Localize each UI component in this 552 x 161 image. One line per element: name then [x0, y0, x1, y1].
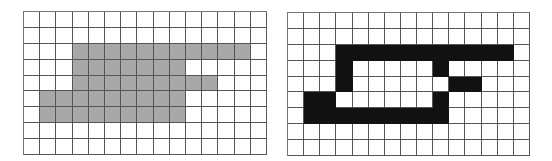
grid-cell: [514, 92, 530, 108]
grid-cell: [304, 124, 320, 140]
filled-cell: [121, 60, 137, 76]
grid-cell: [353, 29, 369, 45]
grid-cell: [235, 28, 251, 44]
grid-cell: [202, 12, 218, 28]
filled-cell: [170, 91, 186, 107]
grid-cell: [24, 123, 40, 139]
filled-cell: [498, 45, 514, 61]
grid-cell: [218, 76, 234, 92]
filled-cell: [336, 45, 352, 61]
filled-cell: [137, 91, 153, 107]
grid-cell: [369, 140, 385, 156]
grid-cell: [73, 12, 89, 28]
grid-cell: [288, 92, 304, 108]
grid-cell: [417, 92, 433, 108]
filled-cell: [202, 76, 218, 92]
grid-cell: [353, 124, 369, 140]
filled-cell: [56, 107, 72, 123]
grid-cell: [304, 140, 320, 156]
grid-cell: [56, 60, 72, 76]
filled-cell: [465, 45, 481, 61]
grid-cell: [170, 139, 186, 155]
grid-cell: [369, 77, 385, 93]
grid-cell: [202, 91, 218, 107]
grid-cell: [336, 92, 352, 108]
grid-cell: [498, 29, 514, 45]
grid-cell: [385, 61, 401, 77]
grid-cell: [218, 139, 234, 155]
grid-cell: [105, 123, 121, 139]
filled-cell: [89, 107, 105, 123]
filled-cell: [401, 45, 417, 61]
grid-cell: [498, 61, 514, 77]
filled-cell: [449, 77, 465, 93]
grid-cell: [154, 28, 170, 44]
grid-cell: [121, 12, 137, 28]
filled-cell: [433, 45, 449, 61]
grid-cell: [320, 140, 336, 156]
grid-cell: [336, 140, 352, 156]
grid-cell: [304, 29, 320, 45]
grid-cell: [401, 61, 417, 77]
grid-cell: [401, 124, 417, 140]
grid-cell: [353, 61, 369, 77]
filled-cell: [433, 61, 449, 77]
grid-cell: [385, 140, 401, 156]
grid-cell: [251, 28, 267, 44]
filled-cell: [105, 91, 121, 107]
grid-cell: [401, 29, 417, 45]
grid-cell: [288, 140, 304, 156]
grid-cell: [73, 28, 89, 44]
grid-cell: [369, 61, 385, 77]
grid-cell: [170, 12, 186, 28]
filled-cell: [170, 44, 186, 60]
grid-cell: [417, 29, 433, 45]
grid-cell: [235, 123, 251, 139]
grid-cell: [417, 77, 433, 93]
filled-cell: [89, 76, 105, 92]
filled-cell: [465, 77, 481, 93]
grid-cell: [385, 77, 401, 93]
filled-cell: [218, 44, 234, 60]
grid-cell: [186, 91, 202, 107]
filled-cell: [336, 61, 352, 77]
grid-cell: [465, 61, 481, 77]
grid-cell: [235, 139, 251, 155]
grid-cell: [24, 107, 40, 123]
grid-cell: [24, 28, 40, 44]
filled-cell: [304, 108, 320, 124]
grid-cell: [89, 123, 105, 139]
grid-cell: [56, 12, 72, 28]
grid-cell: [186, 107, 202, 123]
filled-cell: [482, 45, 498, 61]
grid-cell: [433, 140, 449, 156]
grid-cell: [154, 12, 170, 28]
right-grid-boundary-outline: [287, 12, 530, 156]
grid-cell: [288, 13, 304, 29]
grid-cell: [218, 12, 234, 28]
filled-cell: [121, 91, 137, 107]
filled-cell: [433, 108, 449, 124]
grid-cell: [514, 140, 530, 156]
grid-cell: [251, 139, 267, 155]
filled-cell: [137, 60, 153, 76]
grid-cell: [186, 12, 202, 28]
grid-cell: [40, 123, 56, 139]
grid-cell: [401, 140, 417, 156]
filled-cell: [56, 91, 72, 107]
grid-cell: [288, 29, 304, 45]
filled-cell: [369, 108, 385, 124]
grid-cell: [186, 60, 202, 76]
grid-cell: [24, 12, 40, 28]
grid-cell: [417, 140, 433, 156]
filled-cell: [137, 76, 153, 92]
filled-cell: [170, 107, 186, 123]
filled-cell: [73, 76, 89, 92]
grid-cell: [465, 140, 481, 156]
grid-cell: [320, 77, 336, 93]
grid-cell: [369, 92, 385, 108]
filled-cell: [369, 45, 385, 61]
grid-cell: [56, 139, 72, 155]
grid-cell: [449, 108, 465, 124]
grid-cell: [449, 13, 465, 29]
